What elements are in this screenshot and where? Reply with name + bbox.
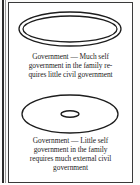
caption-line: government in the family re- [11, 61, 130, 70]
diagram-much-self-government [9, 9, 132, 49]
caption-much-self-government: Government — Much self government in the… [11, 52, 130, 79]
figure-page: Government — Much self government in the… [0, 0, 140, 185]
caption-little-self-government: Government — Little self government in t… [11, 136, 130, 172]
concentric-ellipses-icon [9, 9, 132, 49]
diagram-little-self-government [9, 93, 132, 135]
caption-line: quires little civil government [11, 70, 130, 79]
ellipse-with-center-ellipse-icon [9, 93, 132, 135]
caption-line: government in the family [11, 145, 130, 154]
scan-edge [0, 183, 140, 185]
caption-line: Government — Much self [11, 52, 130, 61]
caption-line: government [11, 163, 130, 172]
figure-border-box: Government — Much self government in the… [8, 2, 133, 183]
caption-line: Government — Little self [11, 136, 130, 145]
page-column-rule [2, 0, 4, 185]
page-column-rule-secondary [5, 0, 6, 185]
caption-line: requires much external civil [11, 154, 130, 163]
